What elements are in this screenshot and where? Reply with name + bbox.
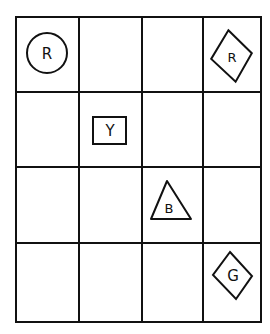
piece-label: G <box>227 267 239 285</box>
piece-label: R <box>227 50 236 65</box>
grid-border <box>16 17 261 322</box>
piece-diamond-r: R <box>208 27 256 84</box>
grid-lines <box>16 17 261 322</box>
piece-triangle-b: B <box>151 181 191 219</box>
piece-label: B <box>165 201 174 216</box>
grid-board: R R Y B G <box>0 0 270 334</box>
piece-circle-r: R <box>27 33 67 73</box>
piece-label: R <box>42 45 52 63</box>
piece-diamond-g: G <box>213 252 252 299</box>
piece-square-y: Y <box>93 117 126 144</box>
piece-label: Y <box>104 122 115 140</box>
